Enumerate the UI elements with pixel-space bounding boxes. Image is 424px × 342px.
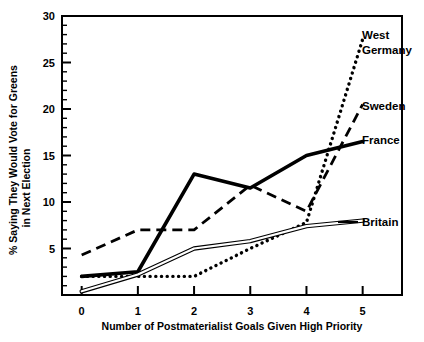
y-axis-title-line1: % Saying They Would Vote for Greens (7, 65, 19, 255)
data-series-layer (82, 39, 363, 291)
series-west-germany (82, 39, 363, 276)
x-tick-label: 0 (79, 305, 85, 317)
y-tick-label: 25 (43, 57, 55, 69)
series-label-britain: Britain (362, 216, 398, 228)
x-axis-tick-labels: 012345 (79, 305, 366, 317)
x-tick-label: 3 (247, 305, 253, 317)
x-axis-title: Number of Postmaterialist Goals Given Hi… (102, 320, 363, 332)
series-label-france: France (362, 134, 400, 146)
y-axis-ticks (62, 16, 71, 295)
series-britain (82, 221, 363, 292)
y-axis-tick-labels: 51015202530 (43, 10, 55, 255)
green-vote-line-chart: 51015202530 012345 Number of Postmateria… (0, 0, 424, 342)
chart-container: 51015202530 012345 Number of Postmateria… (0, 0, 424, 342)
series-label-west-germany-line1: West (362, 29, 389, 41)
y-axis-title-line2: in Next Election (20, 149, 32, 228)
series-label-sweden: Sweden (362, 100, 405, 112)
series-line (82, 39, 363, 276)
plot-frame (62, 16, 402, 295)
series-line-outer (82, 221, 363, 292)
x-axis-ticks (82, 286, 363, 295)
x-tick-label: 2 (191, 305, 197, 317)
y-tick-label: 5 (49, 243, 55, 255)
series-label-west-germany-line2: Germany (362, 44, 412, 56)
y-tick-label: 15 (43, 150, 55, 162)
y-tick-label: 10 (43, 196, 55, 208)
y-tick-label: 30 (43, 10, 55, 22)
y-tick-label: 20 (43, 103, 55, 115)
x-tick-label: 1 (135, 305, 141, 317)
x-tick-label: 5 (360, 305, 366, 317)
x-tick-label: 4 (303, 305, 310, 317)
